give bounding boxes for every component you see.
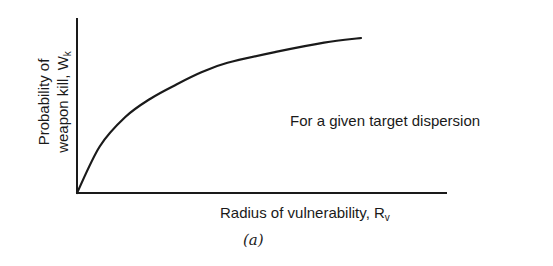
figure-caption: (a) [243,231,264,249]
x-axis-label: Radius of vulnerability, Rv [220,204,390,223]
y-axis-label-line2: weapon kill, Wk [54,50,73,154]
annotation: For a given target dispersion [290,112,480,129]
y-axis-label-line1: Probability of [35,58,52,146]
chart-figure: Probability of weapon kill, Wk For a giv… [0,0,553,266]
